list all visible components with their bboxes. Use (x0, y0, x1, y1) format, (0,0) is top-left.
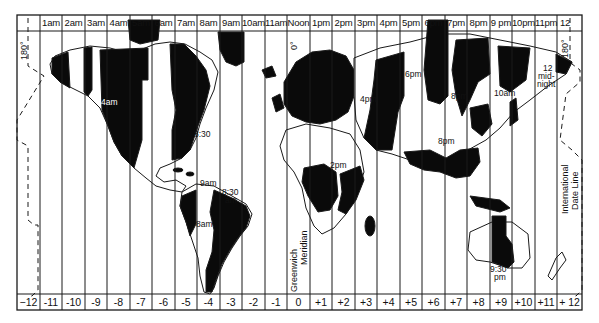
footer-offset-minus-3: -3 (220, 294, 242, 310)
international-label: International (560, 164, 570, 214)
region-label-4am: 4am (101, 98, 118, 107)
meridian-label: Meridian (299, 230, 309, 265)
header-hour-6am: 6am (152, 15, 175, 31)
footer-offset-plus-11: +11 (535, 294, 557, 310)
region-label-2pm: 2pm (330, 161, 347, 170)
footer-offset-plus-7: +7 (445, 294, 467, 310)
prime-meridian-degree-label: 0° (289, 41, 299, 50)
footer-offset-minus-2: -2 (242, 294, 265, 310)
footer-offset-plus-12: + 12 (557, 294, 582, 310)
footer-offset-zero: 0 (287, 294, 310, 310)
header-hour-6pm: 6pm (422, 15, 445, 31)
footer-offset-plus-5: +5 (400, 294, 422, 310)
footer-offset-minus-9: -9 (85, 294, 107, 310)
footer-offset-minus-8: -8 (107, 294, 130, 310)
header-hour-4am: 4am (107, 15, 130, 31)
footer-offset-plus-4: +4 (377, 294, 400, 310)
footer-offset-minus-6: -6 (152, 294, 175, 310)
region-label-4pm: 4pm (360, 95, 377, 104)
footer-offset-minus-5: -5 (175, 294, 197, 310)
header-hour-9am: 9am (220, 15, 242, 31)
header-hour-5am: 5am (130, 15, 152, 31)
footer-offset-plus-1: +1 (310, 294, 332, 310)
region-label-930-pm: pm (494, 273, 506, 282)
footer-offset-plus-10: +10 (512, 294, 535, 310)
footer-offset-plus-3: +3 (355, 294, 377, 310)
date-line-label: Date Line (570, 171, 580, 210)
region-label-9am: 9am (200, 179, 217, 188)
footer-offset-minus-7: -7 (130, 294, 152, 310)
header-hour-3pm: 3pm (355, 15, 377, 31)
footer-offset-plus-2: +2 (332, 294, 355, 310)
header-hour-7am: 7am (175, 15, 197, 31)
footer-offset-minus-10: -10 (62, 294, 85, 310)
footer-offset-plus-9: +9 (490, 294, 512, 310)
region-label-830-canada: 8:30 (194, 130, 211, 139)
left-180-degree-label: 180° (19, 41, 29, 60)
footer-offset-minus-12: −12 (17, 294, 40, 310)
header-hour-12: 12 (557, 15, 573, 31)
land-masses (50, 20, 572, 294)
region-label-night: night (537, 80, 555, 89)
header-hour-2am: 2am (62, 15, 85, 31)
footer-offset-plus-6: +6 (422, 294, 445, 310)
region-label-830-am: am (225, 196, 237, 205)
region-label-8pm-south: 8pm (438, 137, 455, 146)
header-hour-1pm: 1pm (310, 15, 332, 31)
footer-offset-minus-11: -11 (40, 294, 62, 310)
header-hour-9pm: 9 pm (490, 15, 512, 31)
header-hour-4pm: 4pm (377, 15, 400, 31)
header-hour-11pm: 11pm (535, 15, 557, 31)
header-hour-3am: 3am (85, 15, 107, 31)
header-hour-10am: 10am (242, 15, 265, 31)
region-label-6pm: 6pm (405, 70, 422, 79)
right-180-degree-label: 180° (560, 39, 570, 58)
map-graphic (0, 0, 599, 323)
footer-offset-minus-4: -4 (197, 294, 220, 310)
header-hour-7pm: 7pm (445, 15, 467, 31)
header-hour-noon: Noon (287, 15, 310, 31)
header-hour-11am: 11am (265, 15, 287, 31)
time-zone-map: 1am 2am 3am 4am 5am 6am 7am 8am 9am 10am… (0, 0, 599, 323)
region-label-10am: 10am (494, 89, 515, 98)
footer-offset-plus-8: +8 (467, 294, 490, 310)
region-label-8am: 8am (196, 220, 213, 229)
header-hour-10pm: 10pm (512, 15, 535, 31)
footer-offset-minus-1: -1 (265, 294, 287, 310)
header-hour-8am: 8am (197, 15, 220, 31)
header-hour-8pm: 8pm (467, 15, 490, 31)
header-hour-2pm: 2pm (332, 15, 355, 31)
header-hour-1am: 1am (40, 15, 62, 31)
header-hour-5pm: 5pm (400, 15, 422, 31)
region-label-8pm-north: 8pm (451, 92, 468, 101)
greenwich-label: Greenwich (289, 249, 299, 292)
